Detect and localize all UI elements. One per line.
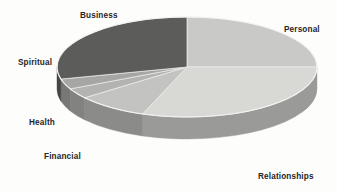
pie-slice-label-relationships: Relationships [258, 172, 314, 182]
pie-slice-label-health: Health [29, 118, 55, 128]
pie-slice-label-financial: Financial [44, 152, 81, 162]
pie-top-surface [57, 17, 317, 117]
pie-slice-label-personal: Personal [284, 25, 320, 35]
pie-slice-label-business: Business [80, 11, 118, 21]
pie-slice-label-spiritual: Spiritual [18, 58, 52, 68]
pie-chart-figure: Business Personal Spiritual Health Finan… [0, 0, 337, 192]
